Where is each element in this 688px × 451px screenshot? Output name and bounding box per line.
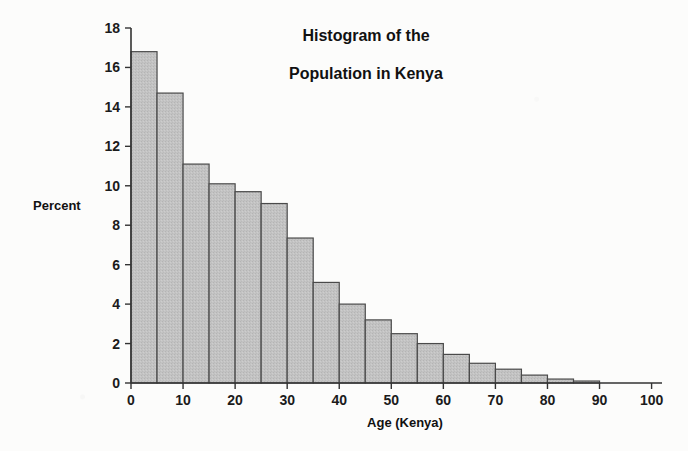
x-tick-label: 90 <box>592 392 608 408</box>
histogram-bar <box>495 369 521 383</box>
x-tick-label: 20 <box>227 392 243 408</box>
histogram-bar <box>209 184 235 383</box>
y-tick-label: 0 <box>112 375 120 391</box>
y-tick-label: 18 <box>104 20 120 36</box>
y-tick-label: 10 <box>104 178 120 194</box>
y-tick-label: 2 <box>112 336 120 352</box>
histogram-svg: 024681012141618 0102030405060708090100 H… <box>0 0 688 451</box>
histogram-bar <box>287 238 313 383</box>
histogram-figure: 024681012141618 0102030405060708090100 H… <box>0 0 688 451</box>
x-tick-label: 0 <box>127 392 135 408</box>
x-tick-label: 80 <box>540 392 556 408</box>
chart-title-line-2: Population in Kenya <box>289 65 443 82</box>
histogram-bar <box>131 52 157 383</box>
y-axis-title: Percent <box>33 198 81 213</box>
x-axis-title: Age (Kenya) <box>367 415 443 430</box>
histogram-bar <box>521 375 547 383</box>
y-tick-label: 16 <box>104 59 120 75</box>
histogram-bar <box>313 282 339 383</box>
x-tick-label: 50 <box>384 392 400 408</box>
histogram-bar <box>391 334 417 383</box>
histogram-bar <box>339 304 365 383</box>
x-tick-label: 70 <box>488 392 504 408</box>
y-tick-label: 4 <box>112 296 120 312</box>
histogram-bar <box>183 164 209 383</box>
y-tick-label: 8 <box>112 217 120 233</box>
x-tick-label: 10 <box>175 392 191 408</box>
x-tick-label: 100 <box>640 392 664 408</box>
y-tick-label: 6 <box>112 257 120 273</box>
chart-title-line-1: Histogram of the <box>302 27 429 44</box>
histogram-bar <box>417 344 443 383</box>
x-tick-label: 60 <box>436 392 452 408</box>
histogram-bar <box>443 354 469 383</box>
histogram-bar <box>365 320 391 383</box>
y-tick-label: 12 <box>104 138 120 154</box>
x-tick-label: 30 <box>279 392 295 408</box>
x-tick-label: 40 <box>331 392 347 408</box>
histogram-bar <box>469 363 495 383</box>
histogram-bar <box>157 93 183 383</box>
histogram-bar <box>261 204 287 383</box>
y-tick-label: 14 <box>104 99 120 115</box>
histogram-bar <box>235 192 261 383</box>
